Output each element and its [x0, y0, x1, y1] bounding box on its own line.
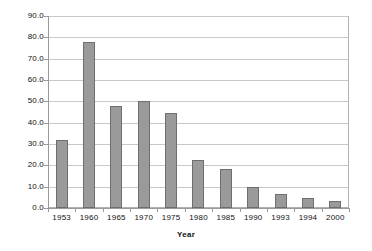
x-axis-title: Year: [0, 230, 372, 239]
y-axis-tick-label: 10.0: [4, 183, 44, 191]
bar-slot: [267, 16, 294, 208]
y-axis-tick-label: 80.0: [4, 33, 44, 41]
y-axis-tick-label: 0.0: [4, 204, 44, 212]
bar[interactable]: [192, 160, 204, 208]
bar[interactable]: [275, 194, 287, 208]
bar-slot: [294, 16, 321, 208]
bar[interactable]: [83, 42, 95, 208]
bar-slot: [103, 16, 130, 208]
x-axis-tick: [185, 208, 186, 212]
x-axis-line: [48, 208, 349, 209]
x-axis-tick: [212, 208, 213, 212]
x-axis-tick: [240, 208, 241, 212]
bar[interactable]: [247, 187, 259, 208]
x-axis-tick: [75, 208, 76, 212]
x-axis-tick: [349, 208, 350, 212]
x-axis-tick: [48, 208, 49, 212]
bar[interactable]: [220, 169, 232, 208]
bar-slot: [130, 16, 157, 208]
bar-slot: [157, 16, 184, 208]
bar-slot: [48, 16, 75, 208]
x-axis-tick: [322, 208, 323, 212]
bar-slot: [240, 16, 267, 208]
y-axis-tick-label: 50.0: [4, 97, 44, 105]
bar[interactable]: [138, 101, 150, 208]
x-axis-tick: [130, 208, 131, 212]
x-axis-tick: [103, 208, 104, 212]
y-axis-tick-label: 20.0: [4, 161, 44, 169]
bar[interactable]: [302, 198, 314, 208]
bar[interactable]: [329, 201, 341, 208]
bar[interactable]: [110, 106, 122, 208]
bar-chart: 0.010.020.030.040.050.060.070.080.090.0 …: [0, 0, 372, 251]
bar-series: [48, 16, 349, 208]
bar-slot: [75, 16, 102, 208]
x-axis-tick: [294, 208, 295, 212]
bar-slot: [185, 16, 212, 208]
bar[interactable]: [165, 113, 177, 208]
y-axis-tick-label: 90.0: [4, 12, 44, 20]
x-axis-tick: [157, 208, 158, 212]
y-axis-tick-label: 60.0: [4, 76, 44, 84]
y-axis-tick-label: 70.0: [4, 55, 44, 63]
x-axis-tick: [267, 208, 268, 212]
bar[interactable]: [56, 140, 68, 208]
y-axis-tick-label: 40.0: [4, 119, 44, 127]
x-axis-tick-label: 2000: [318, 213, 352, 222]
bar-slot: [212, 16, 239, 208]
bar-slot: [322, 16, 349, 208]
y-axis-tick-label: 30.0: [4, 140, 44, 148]
